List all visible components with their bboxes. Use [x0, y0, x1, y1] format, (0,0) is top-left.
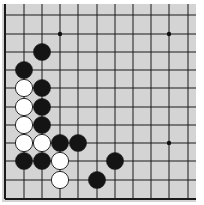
white-stone	[33, 134, 50, 151]
black-stone	[51, 134, 68, 151]
white-stone	[51, 171, 68, 188]
black-stone	[15, 61, 32, 78]
star-point	[167, 32, 171, 36]
black-stone	[33, 43, 50, 60]
black-stone	[33, 79, 50, 96]
white-stone	[15, 134, 32, 151]
go-board	[0, 0, 204, 205]
black-stone	[106, 152, 123, 169]
black-stone	[15, 152, 32, 169]
black-stone	[33, 98, 50, 115]
star-point	[58, 32, 62, 36]
black-stone	[69, 134, 86, 151]
white-stone	[15, 79, 32, 96]
star-point	[167, 141, 171, 145]
black-stone	[33, 152, 50, 169]
white-stone	[15, 98, 32, 115]
white-stone	[15, 116, 32, 133]
black-stone	[88, 171, 105, 188]
white-stone	[51, 152, 68, 169]
black-stone	[33, 116, 50, 133]
